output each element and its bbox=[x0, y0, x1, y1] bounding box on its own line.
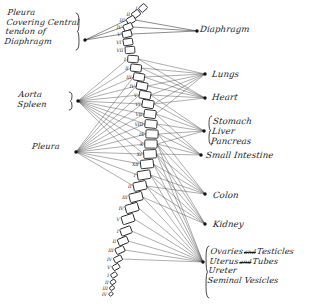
conjunction-and: and bbox=[243, 248, 258, 255]
nerve-connection bbox=[143, 197, 204, 262]
nerve-connection bbox=[157, 124, 201, 155]
vertebra-label: I bbox=[133, 173, 136, 178]
vertebra-body bbox=[145, 119, 158, 128]
hub-colon-dot bbox=[203, 192, 206, 195]
vertebra-thoracic-X bbox=[145, 140, 157, 148]
nerve-connection bbox=[157, 144, 205, 224]
label-kidney: Kidney bbox=[212, 219, 244, 229]
hub-small-intestine-dot bbox=[199, 153, 202, 156]
vertebra-cervical-I bbox=[138, 3, 148, 12]
nerve-connection bbox=[76, 86, 136, 152]
nerve-connection bbox=[138, 59, 205, 74]
label-line: Colon bbox=[212, 190, 239, 200]
vertebra-label: I bbox=[123, 57, 126, 62]
nerve-connection bbox=[78, 101, 144, 154]
brace-aorta-spleen bbox=[69, 92, 72, 110]
nerve-connection bbox=[132, 231, 204, 262]
vertebra-body bbox=[117, 236, 129, 246]
vertebra-body bbox=[146, 130, 158, 139]
nerve-connection bbox=[122, 259, 203, 262]
vertebra-cervical-VI bbox=[123, 38, 133, 46]
tubes-text: Tubes bbox=[252, 256, 279, 266]
vertebra-thoracic-VIII bbox=[145, 119, 158, 128]
vertebra-label: IX bbox=[138, 132, 145, 137]
ovaries-text: Ovaries bbox=[210, 246, 244, 256]
nerve-connection bbox=[125, 250, 204, 262]
vertebra-coccygeal-I bbox=[110, 272, 117, 279]
nerve-connection bbox=[85, 20, 127, 40]
vertebra-cervical-VII bbox=[125, 46, 135, 53]
vertebra-label: III bbox=[102, 286, 108, 291]
vertebra-label: VII bbox=[135, 112, 142, 117]
vertebra-label: II bbox=[104, 280, 109, 285]
nerve-connection bbox=[156, 74, 205, 114]
vertebra-thoracic-II bbox=[130, 64, 142, 72]
label-line: Stomach bbox=[213, 116, 254, 126]
vertebra-body bbox=[113, 255, 123, 264]
label-stomach-liver-pancreas: Stomach Liver Pancreas bbox=[210, 116, 254, 146]
vertebra-sacral-I bbox=[120, 226, 133, 237]
nerve-connection bbox=[78, 95, 139, 101]
nerve-connection bbox=[157, 144, 203, 262]
vertebra-body bbox=[110, 272, 117, 279]
label-line: Seminal Vesicles bbox=[207, 276, 291, 286]
nerve-connection bbox=[147, 186, 204, 262]
label-diaphragm: Diaphragm bbox=[199, 24, 250, 34]
label-line: Heart bbox=[211, 92, 238, 102]
label-line: Diaphragm bbox=[4, 37, 78, 47]
vertebra-body bbox=[137, 170, 151, 181]
vertebra-label: I bbox=[116, 229, 119, 234]
vertebra-sacral-III bbox=[115, 245, 126, 254]
nerve-connection bbox=[157, 144, 201, 155]
hub-diaphragm-right-dot bbox=[195, 29, 198, 32]
vertebra-body bbox=[133, 180, 148, 191]
vertebra-body bbox=[136, 81, 148, 90]
vertebra-body bbox=[125, 46, 135, 53]
vertebra-sacral-V bbox=[112, 263, 121, 271]
hub-lungs-dot bbox=[203, 72, 206, 75]
label-pelvic-organs: OvariesandTesticles UterusandTubes Urete… bbox=[207, 247, 294, 286]
vertebra-label: XI bbox=[136, 152, 142, 157]
label-line: Liver bbox=[211, 126, 252, 136]
nerve-connection bbox=[148, 74, 205, 86]
vertebra-lumbar-III bbox=[129, 191, 144, 202]
hub-pelvic-dot bbox=[201, 260, 204, 263]
nerve-connection bbox=[156, 114, 201, 155]
vertebra-body bbox=[138, 3, 148, 12]
label-heart: Heart bbox=[211, 92, 238, 102]
vertebra-body bbox=[121, 213, 135, 225]
vertebra-body bbox=[130, 64, 142, 72]
vertebra-body bbox=[110, 279, 117, 285]
vertebra-group: IIIIIIIVVVIVIIIIIIIIIVVVIVIIVIIIIXXXIXII… bbox=[101, 3, 158, 296]
nerve-connection bbox=[151, 74, 205, 95]
vertebra-body bbox=[145, 140, 157, 148]
vertebra-body bbox=[108, 292, 113, 297]
vertebra-body bbox=[142, 99, 155, 109]
vertebra-lumbar-I bbox=[137, 170, 151, 181]
label-pleura-central-tendon: Pleura Covering Central tendon of Diaphr… bbox=[4, 8, 81, 47]
vertebra-thoracic-XII bbox=[140, 159, 154, 169]
label-colon: Colon bbox=[212, 190, 239, 200]
vertebra-sacral-II bbox=[117, 236, 129, 246]
label-small-intestine: Small Intestine bbox=[205, 150, 274, 160]
vertebra-label: II bbox=[127, 184, 132, 189]
testicles-text: Testicles bbox=[257, 246, 295, 256]
nerve-connection bbox=[132, 31, 197, 34]
label-aorta-spleen: Aorta Spleen bbox=[17, 90, 48, 109]
nerve-connection bbox=[156, 154, 203, 262]
vertebra-body bbox=[143, 149, 156, 158]
vertebra-body bbox=[128, 55, 139, 63]
vertebra-label: III bbox=[125, 75, 131, 80]
vertebra-body bbox=[112, 263, 121, 271]
vertebra-thoracic-XI bbox=[143, 149, 156, 158]
nerve-connection bbox=[157, 124, 204, 131]
label-line: Small Intestine bbox=[205, 150, 274, 160]
vertebra-label: II bbox=[126, 12, 131, 17]
vertebra-thoracic-IX bbox=[146, 130, 158, 139]
vertebra-label: VIII bbox=[135, 122, 144, 127]
hub-kidney-dot bbox=[203, 222, 206, 225]
vertebra-label: III bbox=[107, 248, 113, 253]
vertebra-label: V bbox=[117, 217, 121, 222]
nerve-connection bbox=[158, 131, 204, 134]
vertebra-label: VII bbox=[117, 48, 124, 53]
